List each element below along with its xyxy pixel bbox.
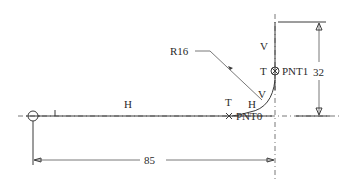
dim-vertical-label: 32 xyxy=(313,66,324,78)
h-line-label: H xyxy=(124,98,132,110)
technical-drawing: R16 V T PNT1 32 V H T PNT0 H 85 xyxy=(0,0,340,189)
radius-label: R16 xyxy=(170,45,189,57)
dim-horizontal-label: 85 xyxy=(144,154,156,166)
radius-leader-arrow-icon xyxy=(228,66,233,70)
v-top-label: V xyxy=(260,40,268,52)
v-arc-label: V xyxy=(258,88,266,100)
t-top-label: T xyxy=(260,65,267,77)
radius-leader-diagonal xyxy=(210,51,262,100)
pnt1-label: PNT1 xyxy=(282,65,308,77)
h-arc-label: H xyxy=(248,98,256,110)
pnt0-label: PNT0 xyxy=(236,110,263,122)
t-bottom-label: T xyxy=(225,96,232,108)
